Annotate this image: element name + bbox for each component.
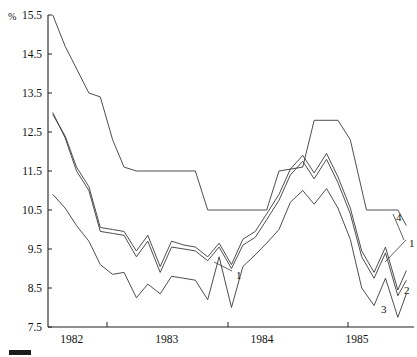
series-label-2: 2 (404, 284, 410, 296)
x-tick-label: 1985 (345, 333, 368, 345)
y-tick-label: 7.5 (28, 321, 43, 333)
series-label-3: 3 (381, 303, 387, 315)
y-tick-label: 11.5 (22, 165, 42, 177)
series-label-1: 1 (236, 269, 242, 281)
y-axis-tick-labels: 15.514.513.512.511.510.59.58.57.5 (22, 9, 42, 333)
x-tick-label: 1984 (250, 333, 273, 345)
x-axis-tick-labels: 1982198319841985 (60, 333, 368, 345)
y-axis-unit-label: % (8, 11, 16, 22)
series-label-4: 4 (396, 211, 402, 223)
y-tick-label: 12.5 (22, 126, 42, 138)
y-tick-label: 10.5 (22, 204, 42, 216)
y-tick-label: 14.5 (22, 48, 42, 60)
x-tick-label: 1982 (60, 333, 83, 345)
y-tick-label: 13.5 (22, 87, 42, 99)
x-tick-label: 1983 (155, 333, 178, 345)
y-tick-label: 8.5 (28, 282, 43, 294)
chart-svg: % 15.514.513.512.511.510.59.58.57.5 1982… (0, 0, 417, 357)
y-axis-unit: % (8, 11, 16, 22)
line-chart: % 15.514.513.512.511.510.59.58.57.5 1982… (0, 0, 417, 357)
legend-swatch (9, 350, 31, 355)
series-line-3 (53, 189, 407, 318)
y-axis-ticks (48, 15, 52, 327)
annotation-leader-line (385, 240, 406, 262)
series-line-2 (53, 113, 407, 296)
series-label-1: 1 (409, 237, 415, 249)
y-tick-label: 9.5 (28, 243, 43, 255)
data-series-group (53, 15, 407, 317)
series-annotations: 14123 (214, 211, 415, 315)
series-line-1 (53, 114, 407, 290)
series-line-4 (53, 15, 407, 226)
x-axis-ticks (107, 322, 348, 327)
y-tick-label: 15.5 (22, 9, 42, 21)
